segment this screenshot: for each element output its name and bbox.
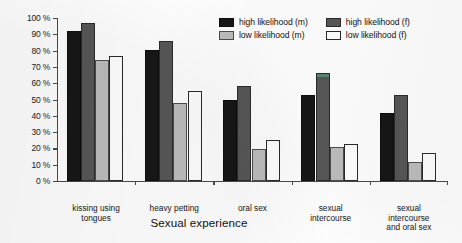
x-axis-tick [213,181,214,185]
x-axis-line [57,181,448,182]
y-axis-tick [53,148,58,149]
y-axis-tick-label: 10 % [31,160,50,170]
category-label-line: oral sex [213,204,291,214]
bar [266,140,280,181]
bar [330,147,344,181]
bar [223,100,237,182]
legend-item: high likelihood (m) [219,17,308,27]
y-axis-tick-label: 60 % [31,78,50,88]
bar [316,73,330,181]
legend-swatch-icon [219,31,234,40]
legend-label: high likelihood (m) [239,17,308,27]
chart-legend: high likelihood (m)high likelihood (f)lo… [219,17,410,40]
y-axis-tick-label: 0 % [36,176,50,186]
x-axis-tick [370,181,371,185]
y-axis-tick [53,132,58,133]
y-axis-tick-label: 100 % [27,13,50,23]
y-axis-tick [53,34,58,35]
legend-item: high likelihood (f) [326,17,410,27]
y-axis-tick [53,100,58,101]
legend-swatch-icon [219,18,234,27]
bar [408,162,422,181]
bar-chart-figure: 0 %10 %20 %30 %40 %50 %60 %70 %80 %90 %1… [0,0,462,243]
legend-swatch-icon [326,31,341,40]
y-axis-tick-label: 50 % [31,95,50,105]
bar [188,91,202,181]
legend-label: low likelihood (m) [239,30,304,40]
y-axis-tick [53,18,58,19]
x-axis-category-label: oral sex [213,204,291,214]
x-axis-title: Sexual experience [0,216,462,229]
bar [109,56,123,181]
bar [159,41,173,181]
legend-label: low likelihood (f) [346,30,407,40]
bar [237,86,251,181]
bar [380,113,394,181]
legend-item: low likelihood (m) [219,30,308,40]
y-axis-tick-label: 30 % [31,127,50,137]
bar [81,23,95,181]
bar [252,149,266,181]
legend-swatch-icon [326,18,341,27]
y-axis-tick [53,51,58,52]
bar [173,103,187,181]
y-axis-tick [53,116,58,117]
legend-item: low likelihood (f) [326,30,410,40]
x-axis-title-text: Sexual experience [150,216,247,229]
y-axis-tick-label: 20 % [31,143,50,153]
bar [67,31,81,181]
x-axis-tick [447,181,448,185]
bar [344,144,358,181]
y-axis-tick [53,165,58,166]
y-axis-tick-label: 90 % [31,29,50,39]
x-axis-tick [135,181,136,185]
x-axis-category-label: heavy petting [135,204,213,214]
category-label-line: heavy petting [135,204,213,214]
y-axis-tick-label: 70 % [31,62,50,72]
plot-area: 0 %10 %20 %30 %40 %50 %60 %70 %80 %90 %1… [57,18,448,181]
bar [301,95,315,181]
y-axis-tick-label: 40 % [31,111,50,121]
bar [95,60,109,181]
legend-label: high likelihood (f) [346,17,410,27]
y-axis-tick-label: 80 % [31,46,50,56]
y-axis-tick [53,181,58,182]
y-axis-tick [53,67,58,68]
bar [145,50,159,181]
y-axis-tick [53,83,58,84]
bar [394,95,408,181]
bar [422,153,436,181]
x-axis-tick [292,181,293,185]
